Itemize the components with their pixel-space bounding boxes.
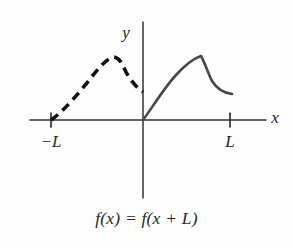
x-axis-label: x xyxy=(270,108,279,127)
base-period-curve xyxy=(143,56,232,120)
figure-container: y x −L L f(x) = f(x + L) xyxy=(0,0,293,249)
tick-label-minus-l: −L xyxy=(41,132,62,151)
y-axis-label: y xyxy=(120,23,130,42)
periodic-extension-curve xyxy=(51,57,143,120)
tick-label-l: L xyxy=(224,132,234,151)
equation-caption: f(x) = f(x + L) xyxy=(0,208,293,229)
